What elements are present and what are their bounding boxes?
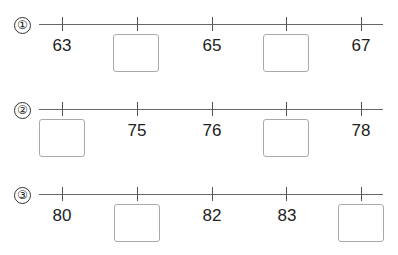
tick-label: 76 (192, 121, 232, 141)
number-line (39, 24, 383, 25)
tick-mark (62, 187, 63, 201)
number-line-exercise-1: ① 63 65 67 (0, 0, 398, 85)
exercise-number-badge: ③ (14, 187, 31, 204)
answer-box[interactable] (263, 119, 309, 157)
tick-label: 75 (117, 121, 157, 141)
answer-box[interactable] (263, 34, 309, 72)
tick-label: 83 (267, 206, 307, 226)
tick-mark (286, 102, 287, 116)
tick-mark (361, 187, 362, 201)
number-line (39, 194, 383, 195)
tick-label: 67 (341, 36, 381, 56)
tick-label: 82 (192, 206, 232, 226)
answer-box[interactable] (39, 119, 85, 157)
tick-mark (212, 17, 213, 31)
answer-box[interactable] (114, 204, 160, 242)
tick-mark (62, 17, 63, 31)
tick-mark (286, 17, 287, 31)
number-line (39, 109, 383, 110)
tick-label: 63 (42, 36, 82, 56)
tick-mark (212, 102, 213, 116)
tick-mark (137, 17, 138, 31)
tick-label: 65 (192, 36, 232, 56)
tick-mark (212, 187, 213, 201)
tick-label: 80 (42, 206, 82, 226)
number-line-exercise-2: ② 75 76 78 (0, 85, 398, 170)
tick-label: 78 (341, 121, 381, 141)
tick-mark (62, 102, 63, 116)
tick-mark (137, 102, 138, 116)
tick-mark (361, 17, 362, 31)
answer-box[interactable] (113, 34, 159, 72)
tick-mark (361, 102, 362, 116)
answer-box[interactable] (338, 204, 384, 242)
exercise-number-badge: ① (14, 17, 31, 34)
tick-mark (137, 187, 138, 201)
exercise-number-badge: ② (14, 102, 31, 119)
tick-mark (286, 187, 287, 201)
number-line-exercise-3: ③ 80 82 83 (0, 170, 398, 255)
